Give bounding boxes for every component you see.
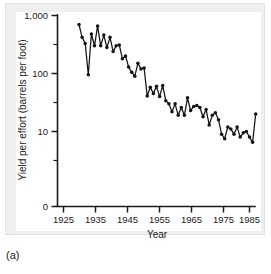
x-tick-label-1945: 1945 xyxy=(117,214,138,225)
data-point xyxy=(127,65,131,69)
data-point xyxy=(254,112,258,116)
data-point xyxy=(93,44,97,48)
data-point xyxy=(223,137,227,141)
y-tick-label-10: 10 xyxy=(37,126,48,137)
data-point xyxy=(133,74,137,78)
x-tick-label-1975: 1975 xyxy=(213,214,234,225)
data-point xyxy=(158,95,162,99)
data-point xyxy=(167,102,171,106)
data-point xyxy=(248,135,252,139)
data-point xyxy=(195,104,199,108)
x-axis-title: Year xyxy=(147,229,168,240)
data-point xyxy=(130,71,134,75)
data-point xyxy=(217,118,221,122)
data-point xyxy=(164,99,168,103)
x-tick-label-1925: 1925 xyxy=(53,214,74,225)
data-point xyxy=(211,114,215,118)
figure-panel-a: 1,000 100 10 0 1925 1935 1945 1955 1965 … xyxy=(0,0,271,274)
data-point xyxy=(189,109,193,113)
series-line-yield-per-effort xyxy=(79,24,256,142)
data-point xyxy=(192,105,196,109)
data-point xyxy=(229,127,233,131)
data-point xyxy=(186,96,190,100)
data-point xyxy=(114,44,118,48)
data-point xyxy=(176,114,180,118)
data-point xyxy=(251,141,255,145)
data-point xyxy=(105,46,109,50)
x-tick-label-1955: 1955 xyxy=(149,214,170,225)
data-point xyxy=(139,67,143,71)
data-point xyxy=(204,108,208,112)
data-point xyxy=(149,85,153,89)
data-point xyxy=(207,123,211,127)
data-point xyxy=(183,114,187,118)
series-markers-group xyxy=(77,23,257,144)
data-point xyxy=(170,110,174,114)
data-point xyxy=(90,32,94,36)
figure-caption: (a) xyxy=(6,250,19,261)
data-point xyxy=(173,102,177,106)
data-point xyxy=(235,125,239,129)
data-point xyxy=(232,132,236,136)
data-point xyxy=(198,106,202,110)
data-point xyxy=(242,131,246,135)
x-tick-label-1965: 1965 xyxy=(181,214,202,225)
data-point xyxy=(155,85,159,89)
data-point xyxy=(161,84,165,88)
y-tick-label-0: 0 xyxy=(43,201,48,212)
data-point xyxy=(124,54,128,58)
data-point xyxy=(214,111,218,115)
data-point xyxy=(87,73,91,77)
data-point xyxy=(152,92,156,96)
data-point xyxy=(145,94,149,98)
data-point xyxy=(80,36,84,40)
data-point xyxy=(245,130,249,134)
data-point xyxy=(121,57,125,61)
data-point xyxy=(99,44,103,48)
data-point xyxy=(111,50,115,54)
line-chart: 1,000 100 10 0 1925 1935 1945 1955 1965 … xyxy=(0,0,271,274)
data-point xyxy=(201,115,205,119)
data-point xyxy=(83,42,87,46)
data-point xyxy=(220,132,224,136)
data-point xyxy=(136,62,140,66)
y-axis-title: Yield per effort (barrels per foot) xyxy=(17,39,28,180)
x-tick-label-1935: 1935 xyxy=(85,214,106,225)
data-point xyxy=(118,43,122,47)
data-point xyxy=(142,66,146,70)
data-point xyxy=(238,135,242,139)
data-point xyxy=(226,125,230,129)
data-point xyxy=(108,36,112,40)
data-point xyxy=(102,33,106,37)
y-tick-label-100: 100 xyxy=(32,68,48,79)
x-tick-label-1985: 1985 xyxy=(239,214,260,225)
data-point xyxy=(77,23,81,27)
data-point xyxy=(180,106,184,110)
y-tick-label-1000: 1,000 xyxy=(24,10,48,21)
data-point xyxy=(96,24,100,28)
